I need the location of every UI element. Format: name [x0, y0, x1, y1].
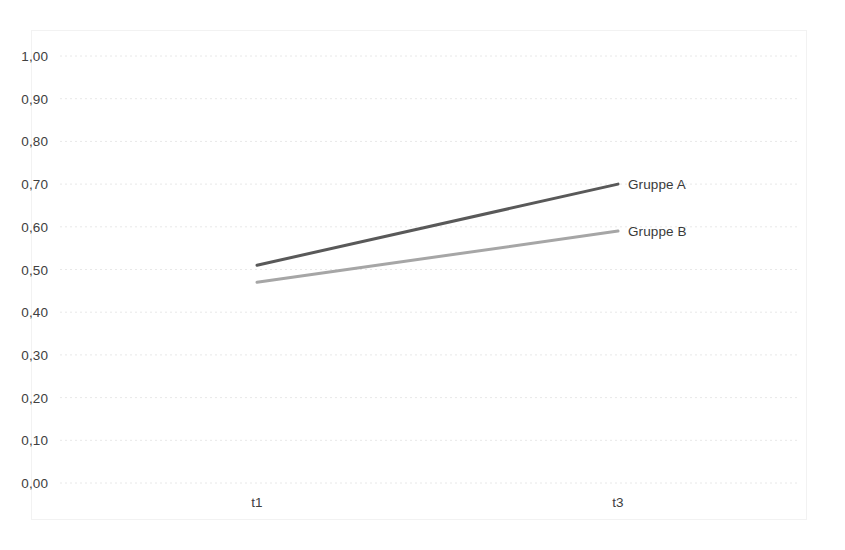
y-axis-tick-label: 0,50 — [2, 262, 48, 277]
chart-canvas — [0, 0, 845, 550]
series-line-gruppe-b — [257, 231, 618, 282]
y-axis-tick-label: 0,30 — [2, 347, 48, 362]
x-axis-tick-label: t1 — [227, 495, 287, 510]
gridlines — [60, 56, 800, 483]
series-label-gruppe-a: Gruppe A — [628, 177, 686, 192]
x-axis-tick-label: t3 — [588, 495, 648, 510]
series-lines — [257, 184, 618, 282]
series-line-gruppe-a — [257, 184, 618, 265]
y-axis-tick-label: 0,80 — [2, 134, 48, 149]
line-chart: 1,000,900,800,700,600,500,400,300,200,10… — [0, 0, 845, 550]
y-axis-tick-label: 0,90 — [2, 91, 48, 106]
y-axis-tick-label: 0,00 — [2, 476, 48, 491]
y-axis-tick-label: 0,40 — [2, 305, 48, 320]
series-label-gruppe-b: Gruppe B — [628, 224, 687, 239]
y-axis-tick-label: 0,20 — [2, 390, 48, 405]
y-axis-tick-label: 0,70 — [2, 177, 48, 192]
y-axis-tick-label: 1,00 — [2, 49, 48, 64]
y-axis-tick-label: 0,60 — [2, 219, 48, 234]
y-axis-tick-label: 0,10 — [2, 433, 48, 448]
